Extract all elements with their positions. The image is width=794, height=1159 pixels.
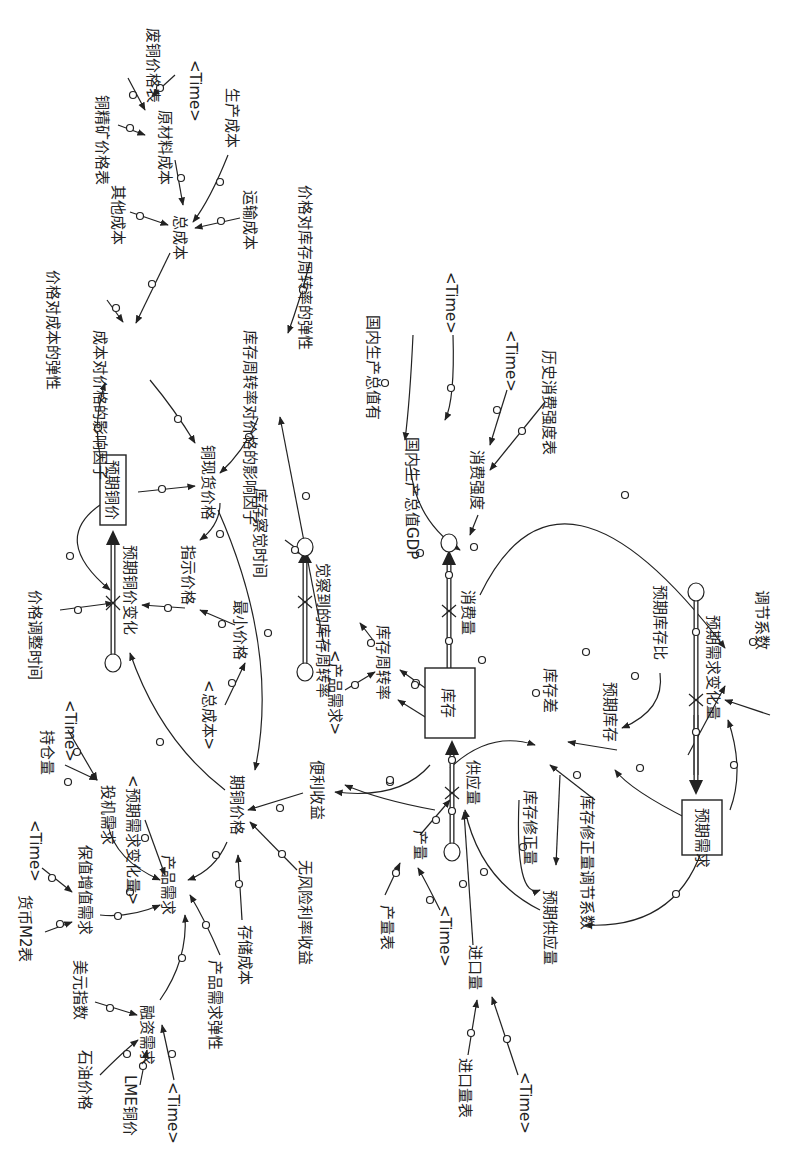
label-adjust-coef: 调节系数 (753, 590, 771, 650)
link-circles (49, 85, 757, 1070)
label-transport-cost: 运输成本 (241, 190, 259, 250)
label-expected-inventory: 预期库存 (601, 682, 619, 742)
label-time-6: <Time> (164, 1082, 182, 1144)
cloud-icon (441, 534, 457, 552)
label-time-5: <Time> (26, 820, 44, 882)
label-min-price: 最小价格 (231, 600, 249, 660)
label-hist-intensity-table: 历史消费强度表 (540, 350, 558, 455)
label-storage-cost: 存储成本 (236, 925, 254, 985)
causal-links (42, 75, 770, 1085)
label-import-table: 进口量表 (456, 1058, 474, 1118)
label-total-cost: 总成本 (171, 215, 189, 260)
cloud-icon (105, 654, 121, 672)
label-time-3: <Time> (502, 330, 520, 392)
label-demand-elasticity: 产品需求弹性 (206, 960, 224, 1050)
labels: 废铜价格表 <Time> 铜精矿价格表 原材料成本 生产成本 其他成本 总成本 … (16, 28, 771, 1144)
label-usd-index: 美元指数 (71, 960, 89, 1020)
label-risk-free-rate: 无风险利率收益 (296, 860, 314, 965)
cloud-icon (688, 583, 704, 601)
label-price-cost-elasticity: 价格对成本的弹性 (44, 270, 62, 390)
label-gdp-value: 国内生产总值有 (364, 315, 382, 420)
label-position: 持仓量 (38, 730, 56, 775)
label-cost-price-factor: 成本对价格的影响因子 (91, 330, 109, 480)
label-convenience-yield: 便利收益 (308, 760, 326, 820)
label-spot-price: 铜现货价格 (199, 445, 217, 520)
label-output: 产量 (411, 830, 429, 860)
label-lme-price: LME铜价 (121, 1075, 139, 1136)
label-m2-table: 货币M2表 (16, 895, 34, 963)
cloud-icon (297, 663, 313, 681)
label-oil-price: 石油价格 (76, 1050, 94, 1110)
label-time-7: <Time> (436, 905, 454, 967)
label-product-demand-shadow: <产品需求> (326, 650, 344, 735)
label-inventory-stock: 库存 (439, 688, 457, 718)
label-expected-price-change: 预期铜价变化 (121, 545, 139, 635)
stock-flow-diagram: 废铜价格表 <Time> 铜精矿价格表 原材料成本 生产成本 其他成本 总成本 … (0, 0, 794, 1159)
cloud-icon (444, 843, 460, 861)
label-time-1: <Time> (186, 60, 204, 122)
label-consumption: 消费量 (459, 590, 477, 635)
label-expected-demand-change-shadow: <预期需求变化量> (124, 775, 142, 905)
label-raw-material-cost: 原材料成本 (156, 110, 174, 185)
label-inventory-gap: 库存差 (541, 668, 559, 713)
label-concentrate-price-table: 铜精矿价格表 (93, 95, 111, 185)
label-speculative-demand: 投机需求 (99, 785, 117, 845)
label-financing-demand: 融资需求 (138, 1005, 156, 1065)
label-expected-demand-change: 预期需求变化量 (704, 615, 722, 720)
label-expected-inventory-ratio: 预期库存比 (651, 585, 669, 660)
label-hedge-demand: 保值增值需求 (76, 845, 94, 935)
label-inventory-correction: 库存修正量 (521, 790, 539, 865)
label-product-demand: 产品需求 (159, 855, 177, 915)
label-indicated-price: 指示价格 (179, 545, 197, 605)
label-supply: 供应量 (464, 760, 482, 805)
label-expected-supply: 预期供应量 (541, 890, 559, 965)
label-gdp: 国内生产总值GDP (403, 437, 421, 559)
label-time-2: <Time> (442, 272, 460, 334)
label-price-turnover-elasticity: 价格对库存周转率的弹性 (296, 185, 314, 350)
label-inventory-turnover: 库存周转率 (374, 625, 392, 700)
label-time-8: <Time> (516, 1072, 534, 1134)
label-inventory-correction-coef: 库存修正量调节系数 (578, 795, 596, 930)
label-production-cost: 生产成本 (223, 88, 241, 148)
label-price-adjust-time: 价格调整时间 (26, 590, 44, 680)
cloud-icon (297, 538, 313, 556)
label-futures-price: 期铜价格 (228, 775, 246, 835)
label-scrap-price-table: 废铜价格表 (144, 28, 162, 103)
label-total-cost-shadow: <总成本> (200, 680, 218, 750)
label-consumption-intensity: 消费强度 (468, 450, 486, 510)
label-output-table: 产量表 (378, 905, 396, 950)
label-other-cost: 其他成本 (109, 185, 127, 245)
label-inventory-perceive-time: 库存察觉时间 (251, 488, 269, 578)
label-expected-price-stock: 预期铜价 (103, 460, 121, 520)
label-import-volume: 进口量 (466, 945, 484, 990)
label-expected-demand-stock: 预期需求 (693, 808, 711, 868)
label-time-4: <Time> (61, 700, 79, 762)
